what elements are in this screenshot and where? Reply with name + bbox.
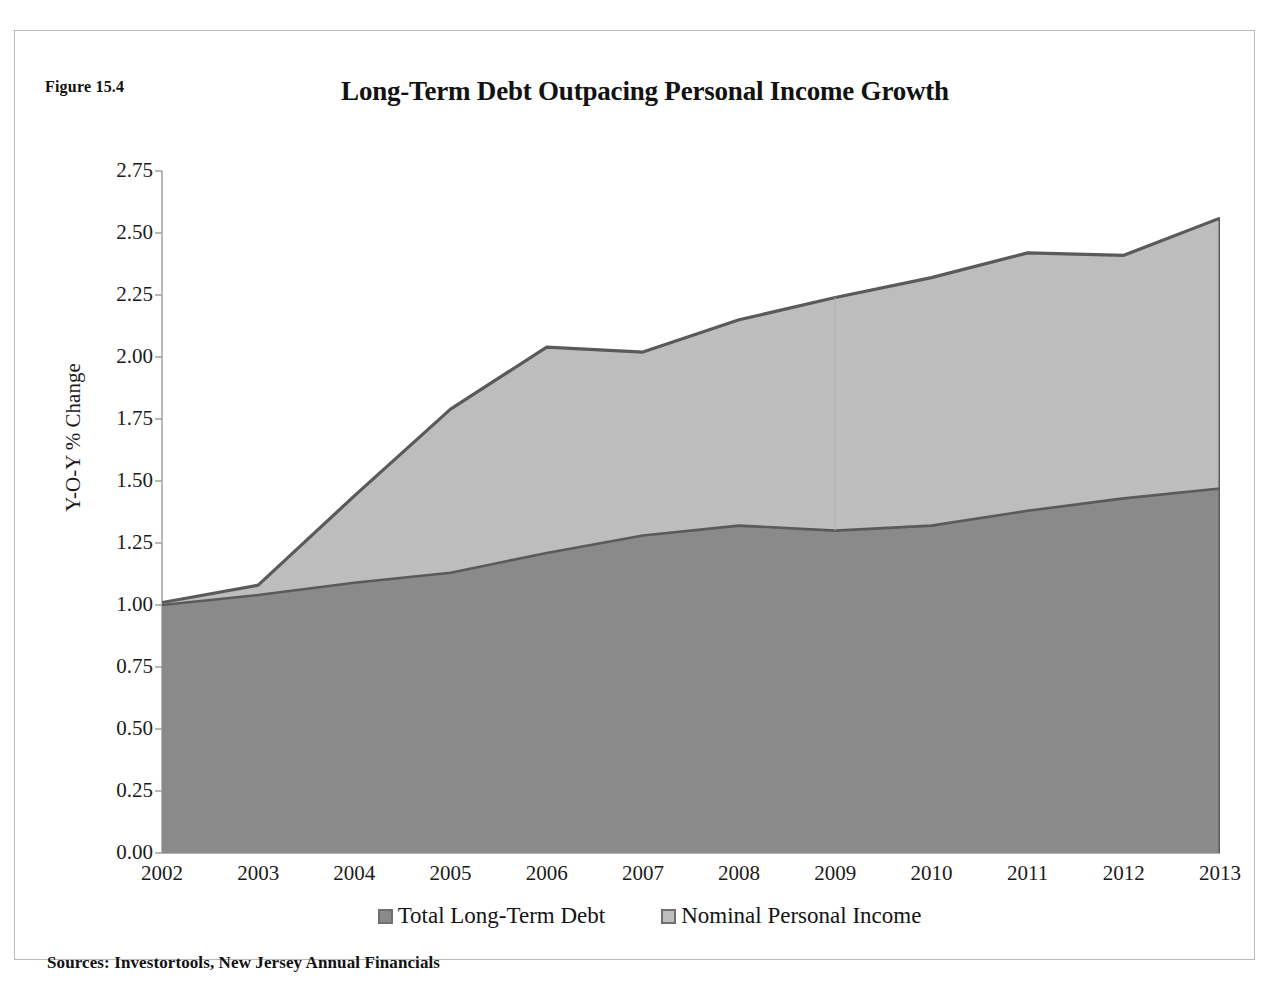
plot-area — [162, 171, 1220, 853]
y-axis-tick-label: 1.25 — [93, 530, 153, 555]
x-axis-tick-label: 2007 — [603, 861, 683, 886]
x-axis-tick-label: 2004 — [314, 861, 394, 886]
y-axis-tick-label: 2.00 — [93, 344, 153, 369]
stacked-area-plot — [162, 171, 1220, 853]
y-axis-tick-label: 0.50 — [93, 716, 153, 741]
source-note: Sources: Investortools, New Jersey Annua… — [47, 953, 440, 973]
x-axis-tick-label: 2011 — [988, 861, 1068, 886]
legend-item-nominal-personal-income: Nominal Personal Income — [661, 903, 921, 929]
x-axis-tick-label: 2005 — [411, 861, 491, 886]
figure-frame: Figure 15.4 Long-Term Debt Outpacing Per… — [14, 30, 1255, 960]
x-axis-tick-label: 2002 — [122, 861, 202, 886]
chart-title: Long-Term Debt Outpacing Personal Income… — [175, 76, 1115, 107]
y-axis-tick-label: 1.50 — [93, 468, 153, 493]
legend-swatch-icon-light — [661, 909, 676, 924]
y-axis-title: Y-O-Y % Change — [61, 338, 86, 538]
x-axis-tick-label: 2003 — [218, 861, 298, 886]
legend-item-total-long-term-debt: Total Long-Term Debt — [378, 903, 606, 929]
y-axis-tick-label: 2.50 — [93, 220, 153, 245]
y-axis-tick-label: 0.75 — [93, 654, 153, 679]
x-axis-tick-label: 2013 — [1180, 861, 1260, 886]
x-axis-tick-label: 2012 — [1084, 861, 1164, 886]
legend-swatch-icon-dark — [378, 909, 393, 924]
x-axis-tick-label: 2010 — [891, 861, 971, 886]
x-axis-tick-label: 2008 — [699, 861, 779, 886]
x-axis-tick-label: 2006 — [507, 861, 587, 886]
x-axis-tick-label: 2009 — [795, 861, 875, 886]
y-axis-tick-labels: 0.000.250.500.751.001.251.501.752.002.25… — [93, 31, 153, 988]
chart-legend: Total Long-Term Debt Nominal Personal In… — [15, 903, 1269, 929]
legend-label-nominal-personal-income: Nominal Personal Income — [681, 903, 921, 929]
y-axis-tick-label: 1.75 — [93, 406, 153, 431]
y-axis-tick-label: 0.25 — [93, 778, 153, 803]
legend-label-total-long-term-debt: Total Long-Term Debt — [398, 903, 606, 929]
y-axis-tick-label: 2.75 — [93, 158, 153, 183]
x-axis-tick-labels: 2002200320042005200620072008200920102011… — [15, 861, 1269, 891]
y-axis-tick-label: 1.00 — [93, 592, 153, 617]
y-axis-tick-label: 2.25 — [93, 282, 153, 307]
